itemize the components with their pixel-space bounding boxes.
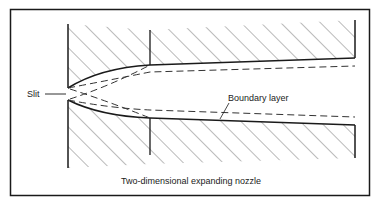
boundary-layer-leader-line [220,103,229,119]
nozzle-diagram: Slit Boundary layer Two-dimensional expa… [0,0,376,205]
slit-label: Slit [27,89,40,99]
boundary-layer-label: Boundary layer [228,93,289,103]
figure-caption: Two-dimensional expanding nozzle [121,176,261,186]
boundary-layer-lines [68,65,355,118]
slit-callout: Slit [27,89,66,99]
boundary-layer-callout: Boundary layer [220,93,289,119]
upper-nozzle-wall [68,20,355,88]
lower-nozzle-wall [68,100,355,168]
